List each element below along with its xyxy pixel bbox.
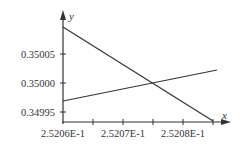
y-axis-arrow-icon <box>60 10 66 20</box>
y-tick-label: 0.35000 <box>21 78 55 89</box>
y-tick-label: 0.35005 <box>21 49 55 60</box>
y-axis-label: y <box>68 10 74 22</box>
chart: y x 0.35005 0.35000 0.34995 2.5206E-1 2.… <box>0 0 244 146</box>
series-decreasing-line <box>63 27 213 121</box>
x-tick-label: 2.5208E-1 <box>161 128 205 139</box>
x-tick-label: 2.5207E-1 <box>101 128 145 139</box>
x-axis-label: x <box>221 109 227 121</box>
x-tick-label: 2.5206E-1 <box>41 128 85 139</box>
y-tick-label: 0.34995 <box>21 107 55 118</box>
